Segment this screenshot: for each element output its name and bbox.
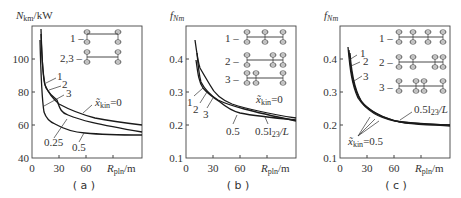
svg-text:1 –: 1 – (70, 32, 84, 44)
svg-text:1 –: 1 – (379, 32, 393, 44)
caption-a: ( a ) (73, 179, 95, 192)
svg-text:100: 100 (13, 53, 30, 65)
figure: Nkm/kW 100 80 60 40 0 30 60 Rpln/m ( a ) (0, 0, 461, 198)
svg-text:80: 80 (18, 86, 30, 98)
svg-text:30: 30 (54, 162, 66, 174)
svg-text:3: 3 (203, 108, 209, 120)
svg-text:2 –: 2 – (379, 56, 393, 68)
y-axis-label-c: fNm (324, 9, 338, 23)
curves-a (40, 29, 142, 135)
svg-text:3 –: 3 – (379, 81, 393, 93)
svg-text:0.5: 0.5 (72, 141, 86, 153)
caption-b: ( b ) (227, 179, 250, 192)
x-axis-label-b: Rpln/m (260, 162, 290, 176)
svg-text:0.4: 0.4 (169, 53, 183, 65)
svg-text:0.1: 0.1 (169, 152, 183, 164)
caption-c: ( c ) (385, 179, 407, 192)
x-axis-label-a: Rpln/m (106, 162, 136, 176)
annotations-b: 1 2 3 x̃kin=0 0.5 0.5l23/L (187, 88, 289, 139)
svg-text:0: 0 (183, 162, 189, 174)
svg-text:0.5: 0.5 (226, 125, 240, 137)
svg-text:0.4: 0.4 (323, 53, 337, 65)
svg-text:2: 2 (363, 55, 369, 67)
svg-text:30: 30 (362, 162, 374, 174)
svg-text:0.1: 0.1 (323, 152, 337, 164)
svg-text:1: 1 (187, 96, 193, 108)
xkin-label-c: x̃kin=0.5 (347, 135, 384, 149)
bogie-schematic-a: 1 – 2,3 – (60, 30, 121, 64)
svg-text:0.2: 0.2 (323, 119, 337, 131)
svg-text:2: 2 (193, 103, 199, 115)
svg-text:3: 3 (363, 70, 369, 82)
svg-text:0.3: 0.3 (323, 86, 337, 98)
l23-label-b: 0.5l23/L (255, 125, 289, 139)
svg-text:0.2: 0.2 (169, 119, 183, 131)
panel-b: fNm 0.4 0.3 0.2 0.1 0 30 60 Rpln/m ( b ) (169, 9, 296, 192)
svg-text:60: 60 (389, 162, 401, 174)
svg-text:0.25: 0.25 (44, 136, 64, 148)
xkin-label-b: x̃kin=0 (255, 93, 283, 107)
svg-text:2,3 –: 2,3 – (60, 52, 83, 64)
svg-text:40: 40 (18, 152, 30, 164)
svg-text:0: 0 (337, 162, 343, 174)
annotations-a: 1 2 3 x̃kin=0 0.25 0.5 (44, 70, 122, 153)
svg-text:1 –: 1 – (225, 32, 239, 44)
svg-text:60: 60 (81, 162, 93, 174)
svg-text:0: 0 (29, 162, 35, 174)
y-axis-label-b: fNm (170, 9, 184, 23)
svg-text:60: 60 (235, 162, 247, 174)
svg-text:0.3: 0.3 (169, 86, 183, 98)
svg-text:3: 3 (66, 87, 72, 99)
svg-text:30: 30 (208, 162, 220, 174)
curves-b (195, 40, 296, 121)
bogie-schematic-b: 1 – 2 – 3 – (225, 30, 286, 85)
bogie-schematic-c: 1 – 2 – 3 – (379, 30, 446, 93)
l23-label-c: 0.5l23/L (414, 103, 448, 117)
panel-c: fNm 0.4 0.3 0.2 0.1 0 30 60 Rpln/m ( c ) (323, 9, 450, 192)
xkin-label-a: x̃kin=0 (94, 96, 122, 110)
svg-text:60: 60 (18, 119, 30, 131)
svg-text:2 –: 2 – (225, 55, 239, 67)
y-axis-label-a: Nkm/kW (15, 9, 53, 23)
x-axis-label-c: Rpln/m (414, 162, 444, 176)
panel-a: Nkm/kW 100 80 60 40 0 30 60 Rpln/m ( a ) (13, 9, 143, 192)
svg-text:3 –: 3 – (225, 73, 239, 85)
